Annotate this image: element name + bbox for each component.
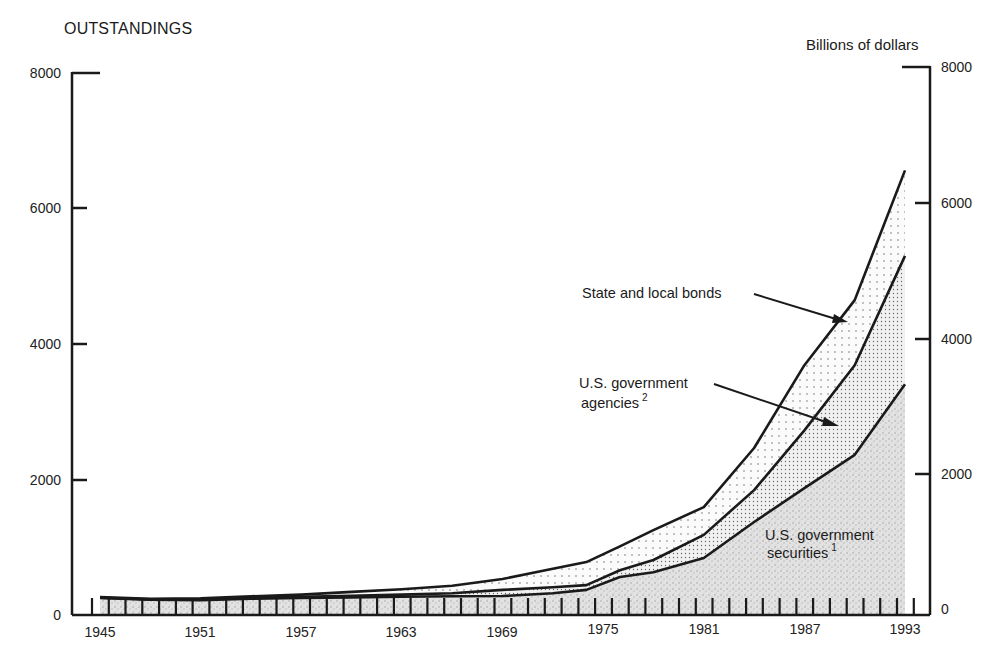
x-tick-1945: 1945 <box>84 624 115 640</box>
y-right-tick-8000: 8000 <box>941 59 972 75</box>
x-tick-1969: 1969 <box>486 624 517 640</box>
annotation-state-local-bonds: State and local bonds <box>582 285 848 323</box>
y-left-tick-2000: 2000 <box>30 472 61 488</box>
y-right-tick-0: 0 <box>941 601 949 617</box>
label-state-local-bonds: State and local bonds <box>582 285 721 301</box>
label-agencies-line2: agencies2 <box>581 392 648 411</box>
x-tick-1993: 1993 <box>889 621 920 637</box>
x-tick-1975: 1975 <box>587 621 618 637</box>
y-left-tick-0: 0 <box>53 607 61 623</box>
y-right-tick-6000: 6000 <box>941 195 972 211</box>
y-left-tick-8000: 8000 <box>30 65 61 81</box>
x-tick-1963: 1963 <box>385 624 416 640</box>
y-right-tick-4000: 4000 <box>941 331 972 347</box>
y-right-tick-2000: 2000 <box>941 466 972 482</box>
x-tick-1951: 1951 <box>184 624 215 640</box>
y-left-tick-6000: 6000 <box>30 200 61 216</box>
x-tick-1981: 1981 <box>688 621 719 637</box>
y-left-tick-4000: 4000 <box>30 336 61 352</box>
chart-area: 0 2000 4000 6000 8000 0 2000 4000 6000 8… <box>0 0 1003 668</box>
label-securities-line1: U.S. government <box>765 527 874 543</box>
y-axis-right <box>902 66 930 615</box>
x-tick-1987: 1987 <box>789 621 820 637</box>
label-agencies-line1: U.S. government <box>579 375 688 391</box>
x-tick-1957: 1957 <box>285 624 316 640</box>
label-securities-line2: securities1 <box>767 542 837 561</box>
